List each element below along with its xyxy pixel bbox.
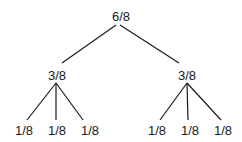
edge-right-leaf-1	[160, 83, 187, 120]
leaf-left-2: 1/8	[48, 123, 66, 138]
leaf-left-3: 1/8	[81, 123, 99, 138]
node-right: 3/8	[178, 68, 196, 83]
node-root: 6/8	[112, 9, 130, 24]
edge-left-leaf-3	[56, 83, 83, 120]
edge-root-right	[120, 25, 179, 63]
leaf-right-3: 1/8	[214, 123, 232, 138]
leaf-right-2: 1/8	[181, 123, 199, 138]
edge-right-leaf-2	[187, 83, 188, 120]
edge-right-leaf-3	[187, 83, 221, 120]
node-left: 3/8	[48, 68, 66, 83]
edge-root-left	[62, 25, 116, 63]
tree-diagram: 6/8 3/8 3/8 1/8 1/8 1/8 1/8 1/8 1/8	[0, 0, 242, 142]
leaf-right-1: 1/8	[148, 123, 166, 138]
edge-left-leaf-1	[27, 83, 56, 120]
leaf-left-1: 1/8	[15, 123, 33, 138]
